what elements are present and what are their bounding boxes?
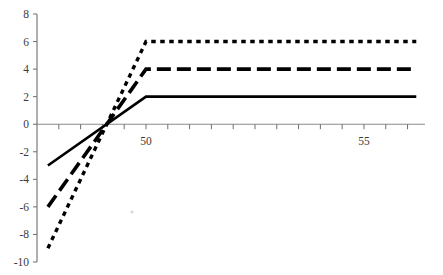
y-tick-label: -10 bbox=[14, 256, 30, 268]
x-tick-label: 50 bbox=[140, 135, 152, 147]
y-tick-label: 8 bbox=[23, 8, 29, 20]
y-tick-label: 6 bbox=[23, 36, 29, 48]
stray-speck bbox=[130, 210, 133, 213]
y-tick-label: -4 bbox=[19, 173, 29, 185]
y-tick-label: -8 bbox=[19, 228, 29, 240]
y-tick-label: 0 bbox=[23, 118, 29, 130]
y-tick-label: -6 bbox=[19, 201, 29, 213]
y-tick-label: 2 bbox=[23, 91, 29, 103]
chart-container: 86420-2-4-6-8-10 5055 bbox=[0, 0, 443, 275]
y-tick-label: 4 bbox=[23, 63, 29, 75]
line-chart: 86420-2-4-6-8-10 5055 bbox=[0, 0, 443, 275]
y-tick-label: -2 bbox=[19, 146, 29, 158]
x-tick-label: 55 bbox=[358, 135, 370, 147]
